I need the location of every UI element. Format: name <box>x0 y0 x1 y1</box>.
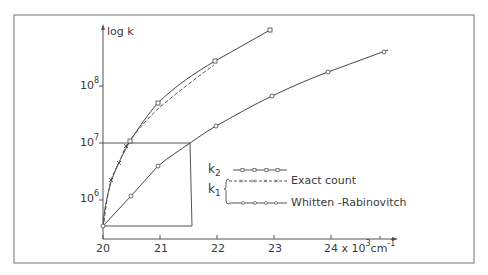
legend-k1-label: k1 <box>208 183 221 195</box>
annotation-box <box>103 143 192 226</box>
x-tick-label-22: 22 <box>211 243 225 254</box>
legend-whitten-label: Whitten -Rabinovitch <box>291 197 407 208</box>
chart-canvas <box>0 0 488 275</box>
y-tick-label-8: 108 <box>80 80 99 91</box>
y-tick-label-6: 106 <box>80 193 99 204</box>
x-tick-label-24-unit: 24 x 103cm-1 <box>324 243 395 254</box>
x-tick-label-20: 20 <box>96 243 110 254</box>
x-tick-label-21: 21 <box>154 243 168 254</box>
x-tick-label-23: 23 <box>268 243 282 254</box>
legend-exact-count-label: Exact count <box>291 175 356 186</box>
y-axis-label: log k <box>107 26 134 37</box>
series-k2-markers <box>128 28 272 143</box>
y-tick-label-7: 107 <box>80 137 99 148</box>
y-axis-arrow-icon <box>101 24 105 30</box>
legend-brace-icon <box>224 179 229 204</box>
series-k2-line <box>103 30 270 226</box>
legend-k2-label: k2 <box>208 163 221 175</box>
